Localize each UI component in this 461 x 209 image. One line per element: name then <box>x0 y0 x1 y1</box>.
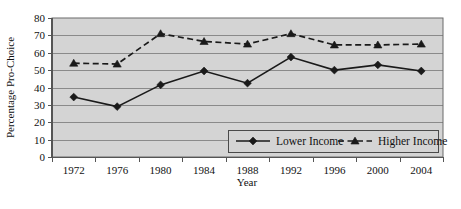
legend-label: Higher Income <box>378 135 447 148</box>
pro-choice-by-income-line-chart: 01020304050607080 1972197619801984198819… <box>0 0 461 209</box>
x-tick-label-1984: 1984 <box>193 164 216 176</box>
y-tick-label-50: 50 <box>34 64 46 76</box>
legend-label: Lower Income <box>276 135 343 147</box>
x-tick-label-2004: 2004 <box>410 164 433 176</box>
x-tick-label-1980: 1980 <box>150 164 173 176</box>
x-tick-labels: 197219761980198419881992199620002004 <box>63 164 433 176</box>
y-tick-marks <box>48 19 52 158</box>
x-tick-label-1992: 1992 <box>280 164 302 176</box>
x-tick-label-1972: 1972 <box>63 164 85 176</box>
x-tick-label-1996: 1996 <box>323 164 346 176</box>
y-tick-label-60: 60 <box>34 47 46 59</box>
y-tick-label-40: 40 <box>34 82 46 94</box>
y-tick-label-0: 0 <box>40 151 46 163</box>
y-tick-label-10: 10 <box>34 134 46 146</box>
y-tick-labels: 01020304050607080 <box>34 12 46 163</box>
chart-legend: Lower IncomeHigher Income <box>229 131 448 153</box>
x-tick-label-1976: 1976 <box>106 164 129 176</box>
y-tick-label-20: 20 <box>34 116 46 128</box>
y-axis-title: Percentage Pro-Choice <box>4 37 16 138</box>
x-tick-label-1988: 1988 <box>237 164 260 176</box>
x-tick-label-2000: 2000 <box>367 164 390 176</box>
y-tick-label-80: 80 <box>34 12 46 24</box>
x-axis-title: Year <box>237 176 258 188</box>
y-tick-label-70: 70 <box>34 29 46 41</box>
chart-canvas: 01020304050607080 1972197619801984198819… <box>0 0 461 209</box>
y-tick-label-30: 30 <box>34 99 46 111</box>
